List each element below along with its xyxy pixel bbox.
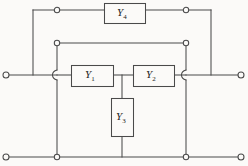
circuit-schematic-canvas (0, 0, 248, 166)
junction-node-rail2-right (183, 40, 188, 45)
component-label-y4: Y4 (117, 7, 127, 21)
component-label-y3-subscript: 3 (122, 117, 126, 125)
junction-node-bottom-left (54, 154, 59, 159)
component-label-y3: Y3 (116, 111, 126, 125)
component-label-y4-subscript: 4 (123, 13, 127, 21)
terminal-input-top[interactable] (3, 72, 9, 78)
junction-node-top-left (54, 7, 59, 12)
junction-node-rail2-left (54, 40, 59, 45)
terminal-output-bottom[interactable] (238, 154, 244, 160)
junction-node-top-right (183, 7, 188, 12)
component-label-y2-subscript: 2 (152, 75, 156, 83)
component-label-y2: Y2 (146, 69, 156, 83)
terminal-output-top[interactable] (238, 72, 244, 78)
junction-node-bottom-right (183, 154, 188, 159)
component-label-y1: Y1 (85, 69, 95, 83)
circuit-diagram: Y4 Y1 Y2 Y3 (0, 0, 248, 166)
terminal-input-bottom[interactable] (3, 154, 9, 160)
component-label-y1-subscript: 1 (91, 75, 95, 83)
